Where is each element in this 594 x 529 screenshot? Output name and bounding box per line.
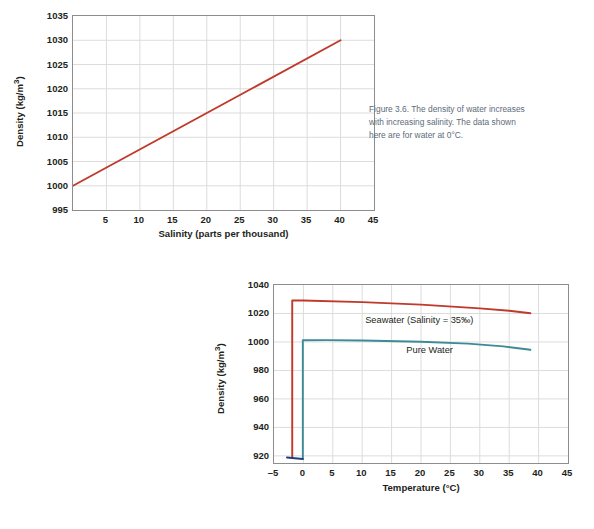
y-axis-tick-label: 1000 [47, 179, 68, 190]
y-axis-tick-label: 1020 [47, 82, 68, 93]
y-axis-tick-label: 1015 [47, 107, 68, 118]
y-axis-title-salinity: Density (kg/m3) [12, 57, 25, 167]
figure-3-6: 99510001005101010151020102510301035 5101… [0, 0, 400, 250]
y-axis-tick-label: 920 [253, 449, 269, 460]
y-axis-title-text-temperature: Density (kg/m3) [216, 343, 227, 414]
x-axis-tick-label: 45 [368, 214, 379, 225]
y-axis-tick-label: 1040 [248, 279, 269, 290]
series-label-pure-water: Pure Water [406, 345, 453, 355]
y-axis-title-temperature: Density (kg/m3) [213, 324, 226, 434]
series-label-ice: Ice [288, 461, 300, 464]
y-axis-tick-label: 1005 [47, 155, 68, 166]
caption-line: Figure 3.6. The density of water increas… [369, 103, 587, 116]
chart-density-vs-temperature: Seawater (Salinity = 35‰) Pure Water Ice… [225, 276, 594, 529]
y-axis-ticks-salinity: 99510001005101010151020102510301035 [26, 15, 68, 211]
y-axis-tick-label: 1020 [248, 307, 269, 318]
x-axis-tick-label: 30 [474, 467, 485, 478]
data-series-line [287, 457, 303, 459]
x-axis-tick-label: 35 [503, 467, 514, 478]
x-axis-tick-label: 30 [267, 214, 278, 225]
x-axis-tick-label: 10 [356, 467, 367, 478]
data-series-line [303, 340, 531, 459]
y-axis-tick-label: 940 [253, 421, 269, 432]
x-axis-tick-label: 40 [532, 467, 543, 478]
x-axis-tick-label: 25 [234, 214, 245, 225]
x-axis-tick-label: 15 [385, 467, 396, 478]
y-axis-tick-label: 1025 [47, 58, 68, 69]
figure-3-7: Seawater (Salinity = 35‰) Pure Water Ice… [225, 276, 594, 529]
x-axis-tick-label: 20 [415, 467, 426, 478]
y-axis-tick-label: 960 [253, 392, 269, 403]
x-axis-tick-label: 35 [301, 214, 312, 225]
plot-area-temperature: Seawater (Salinity = 35‰) Pure Water Ice [273, 284, 569, 464]
caption-line: here are for water at 0°C. [369, 129, 587, 142]
caption-line: with increasing salinity. The data shown [369, 116, 587, 129]
y-axis-title-text-salinity: Density (kg/m3) [15, 76, 26, 147]
y-axis-tick-label: 1000 [248, 335, 269, 346]
x-axis-tick-label: 25 [444, 467, 455, 478]
x-axis-tick-label: 20 [200, 214, 211, 225]
y-axis-ticks-temperature: 920940960980100010201040 [227, 284, 269, 464]
x-axis-tick-label: 0 [300, 467, 305, 478]
x-axis-tick-label: 40 [334, 214, 345, 225]
x-axis-tick-label: 10 [134, 214, 145, 225]
x-axis-tick-label: 15 [167, 214, 178, 225]
x-axis-tick-label: –5 [268, 467, 279, 478]
series-label-seawater: Seawater (Salinity = 35‰) [365, 315, 473, 325]
figure-3-6-caption: Figure 3.6. The density of water increas… [369, 103, 587, 143]
plot-svg-salinity [73, 16, 374, 210]
y-axis-tick-label: 1030 [47, 34, 68, 45]
plot-svg-temperature [274, 285, 568, 463]
y-axis-tick-label: 995 [52, 204, 68, 215]
x-axis-title-temperature: Temperature (°C) [273, 482, 569, 493]
x-axis-tick-label: 5 [329, 467, 334, 478]
x-axis-tick-label: 5 [103, 214, 108, 225]
plot-area-salinity [72, 15, 375, 211]
y-axis-tick-label: 1035 [47, 10, 68, 21]
y-axis-tick-label: 980 [253, 364, 269, 375]
x-axis-tick-label: 45 [562, 467, 573, 478]
y-axis-tick-label: 1010 [47, 131, 68, 142]
x-axis-title-salinity: Salinity (parts per thousand) [72, 228, 375, 239]
chart-density-vs-salinity: 99510001005101010151020102510301035 5101… [0, 0, 400, 250]
